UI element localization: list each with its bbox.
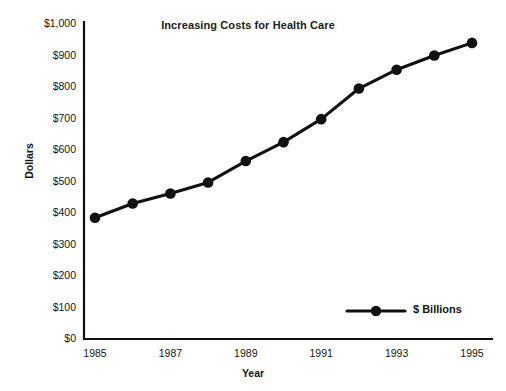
- data-point: [90, 212, 101, 223]
- x-tick-label: 1993: [367, 347, 427, 359]
- data-point: [316, 114, 327, 125]
- y-tick-label: $500: [16, 175, 76, 187]
- y-tick-label: $800: [16, 80, 76, 92]
- series-$-billions: [90, 38, 478, 223]
- legend: [347, 306, 405, 316]
- data-point: [429, 50, 440, 61]
- series-line: [95, 43, 472, 218]
- health-care-costs-line-chart: Increasing Costs for Health Care Dollars…: [0, 0, 506, 391]
- y-tick-label: $700: [16, 112, 76, 124]
- data-point: [241, 156, 252, 167]
- y-tick-label: $300: [16, 238, 76, 250]
- x-tick-label: 1989: [216, 347, 276, 359]
- x-tick-label: 1995: [442, 347, 502, 359]
- y-tick-label: $0: [16, 332, 76, 344]
- axis-lines: [84, 22, 492, 339]
- x-tick-label: 1985: [65, 347, 125, 359]
- series-markers: [90, 38, 478, 223]
- data-point: [391, 64, 402, 75]
- y-tick-label: $400: [16, 206, 76, 218]
- y-tick-label: $100: [16, 301, 76, 313]
- legend-entry-label: $ Billions: [413, 303, 462, 315]
- x-tick-label: 1987: [140, 347, 200, 359]
- y-tick-label: $1,000: [16, 17, 76, 29]
- data-point: [278, 137, 289, 148]
- data-point: [467, 38, 478, 49]
- data-point: [127, 198, 138, 209]
- y-tick-label: $900: [16, 49, 76, 61]
- data-point: [165, 188, 176, 199]
- data-point: [354, 83, 365, 94]
- legend-marker-swatch: [371, 306, 381, 316]
- y-tick-label: $200: [16, 269, 76, 281]
- x-tick-label: 1991: [291, 347, 351, 359]
- y-tick-label: $600: [16, 143, 76, 155]
- data-point: [203, 177, 214, 188]
